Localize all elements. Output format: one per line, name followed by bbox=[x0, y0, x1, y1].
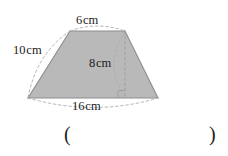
label-left-edge-unit: cm bbox=[26, 43, 41, 57]
answer-paren-close: ) bbox=[209, 124, 216, 144]
label-height-unit: cm bbox=[96, 56, 111, 70]
label-bottom-edge-value: 16 bbox=[72, 99, 85, 113]
label-top-edge-unit: cm bbox=[83, 13, 98, 27]
label-left-edge: 10cm bbox=[13, 44, 42, 57]
label-height: 8cm bbox=[89, 57, 111, 70]
trapezoid-figure: 6cm 10cm 8cm 16cm ( ) bbox=[0, 0, 228, 156]
label-bottom-edge: 16cm bbox=[72, 100, 101, 113]
label-height-value: 8 bbox=[89, 56, 95, 70]
geometry-canvas bbox=[0, 0, 228, 156]
label-top-edge-value: 6 bbox=[76, 13, 82, 27]
label-top-edge: 6cm bbox=[76, 14, 98, 27]
label-left-edge-value: 10 bbox=[13, 43, 26, 57]
label-bottom-edge-unit: cm bbox=[85, 99, 100, 113]
answer-paren-open: ( bbox=[64, 124, 71, 144]
